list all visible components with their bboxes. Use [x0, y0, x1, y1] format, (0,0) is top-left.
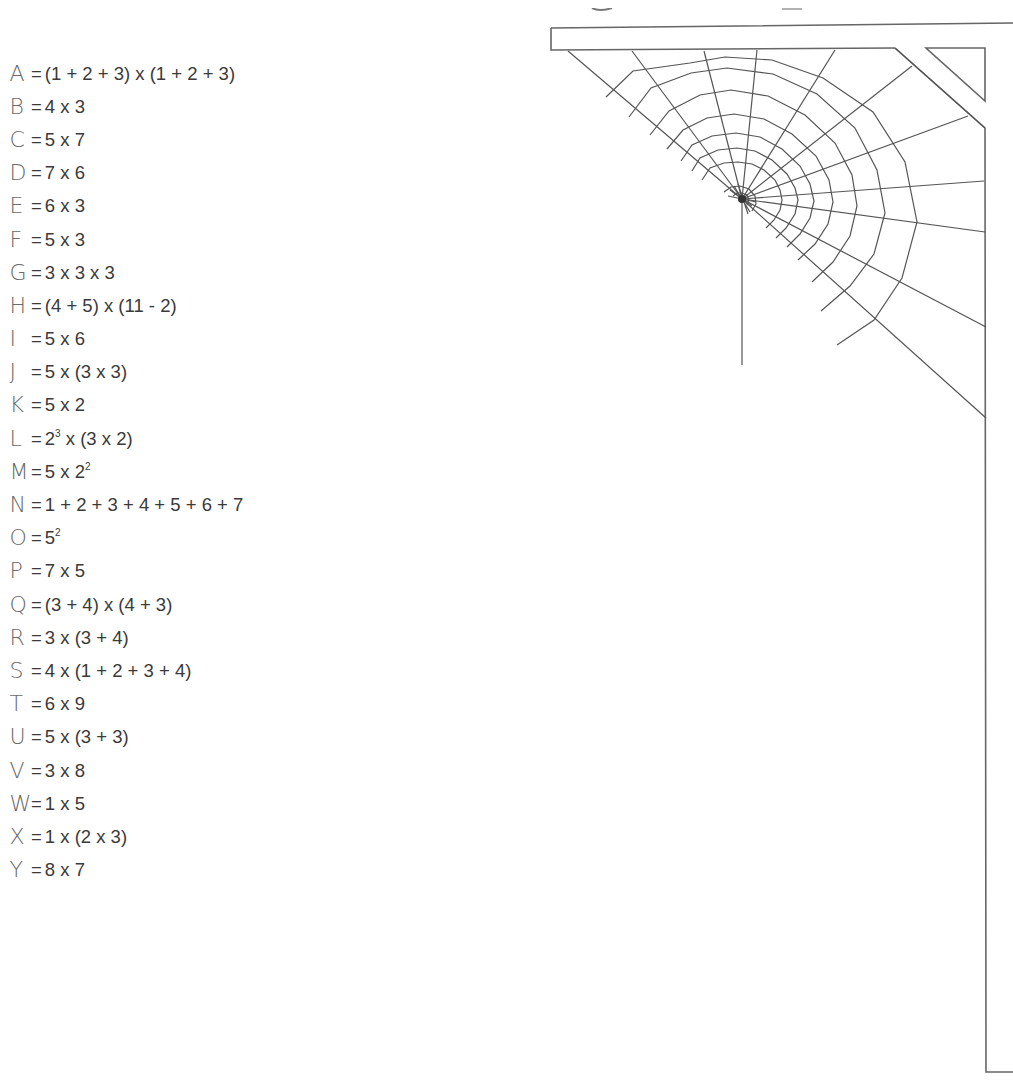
code-expression: 3 x 3 x 3 — [45, 259, 115, 287]
equals-sign: = — [31, 325, 42, 353]
code-row-h: H=(4 + 5) x (11 - 2) — [10, 289, 243, 322]
code-row-d: D=7 x 6 — [10, 157, 243, 190]
equals-sign: = — [31, 591, 42, 619]
equals-sign: = — [31, 856, 42, 884]
web-hub-icon — [738, 195, 746, 203]
code-row-r: R=3 x (3 + 4) — [10, 621, 243, 654]
equals-sign: = — [31, 757, 42, 785]
code-letter: X — [10, 823, 31, 851]
equals-sign: = — [31, 425, 42, 453]
code-row-x: X=1 x (2 x 3) — [10, 820, 243, 853]
code-letter: A — [10, 60, 31, 88]
letter-code-list: A=(1 + 2 + 3) x (1 + 2 + 3) B=4 x 3 C=5 … — [10, 57, 243, 887]
code-row-i: I=5 x 6 — [10, 323, 243, 356]
code-row-k: K=5 x 2 — [10, 389, 243, 422]
code-expression: 6 x 3 — [45, 192, 85, 220]
code-row-v: V=3 x 8 — [10, 754, 243, 787]
code-expression: 1 + 2 + 3 + 4 + 5 + 6 + 7 — [45, 491, 244, 519]
code-expression: 3 x (3 + 4) — [45, 624, 129, 652]
code-letter: T — [10, 690, 31, 718]
equals-sign: = — [31, 226, 42, 254]
equals-sign: = — [31, 60, 42, 88]
code-letter: C — [10, 126, 31, 154]
code-letter: R — [10, 624, 31, 652]
code-row-f: F=5 x 3 — [10, 223, 243, 256]
code-letter: M — [10, 458, 31, 486]
code-expression: 5 x 22 — [45, 458, 91, 486]
code-letter: J — [10, 358, 31, 386]
code-expression: 4 x 3 — [45, 93, 85, 121]
code-expression: (3 + 4) x (4 + 3) — [45, 591, 173, 619]
code-expression: 5 x (3 + 3) — [45, 723, 129, 751]
code-expression: 4 x (1 + 2 + 3 + 4) — [45, 657, 192, 685]
code-letter: N — [10, 491, 31, 519]
code-row-o: O=52 — [10, 522, 243, 555]
code-row-j: J=5 x (3 x 3) — [10, 356, 243, 389]
equals-sign: = — [31, 292, 42, 320]
code-expression: 5 x 3 — [45, 226, 85, 254]
code-row-b: B=4 x 3 — [10, 90, 243, 123]
code-expression: 52 — [45, 524, 61, 552]
code-expression: (1 + 2 + 3) x (1 + 2 + 3) — [45, 60, 235, 88]
code-row-q: Q=(3 + 4) x (4 + 3) — [10, 588, 243, 621]
code-expression: 7 x 6 — [45, 159, 85, 187]
code-expression: 8 x 7 — [45, 856, 85, 884]
equals-sign: = — [31, 391, 42, 419]
code-letter: Y — [10, 856, 31, 884]
frame-icon — [551, 23, 1013, 1072]
code-row-y: Y=8 x 7 — [10, 854, 243, 887]
code-letter: B — [10, 93, 31, 121]
code-row-m: M=5 x 22 — [10, 455, 243, 488]
equals-sign: = — [31, 690, 42, 718]
code-expression: 5 x (3 x 3) — [45, 358, 127, 386]
code-letter: H — [10, 292, 31, 320]
code-letter: G — [10, 259, 31, 287]
code-expression: 7 x 5 — [45, 557, 85, 585]
code-letter: L — [10, 425, 31, 453]
code-expression: 3 x 8 — [45, 757, 85, 785]
exponent: 2 — [85, 461, 91, 472]
code-expression: 6 x 9 — [45, 690, 85, 718]
code-row-t: T=6 x 9 — [10, 688, 243, 721]
code-letter: D — [10, 159, 31, 187]
worksheet-page: A=(1 + 2 + 3) x (1 + 2 + 3) B=4 x 3 C=5 … — [0, 0, 1013, 1083]
equals-sign: = — [31, 491, 42, 519]
equals-sign: = — [31, 823, 42, 851]
code-row-e: E=6 x 3 — [10, 190, 243, 223]
code-letter: K — [10, 391, 31, 419]
code-row-u: U=5 x (3 + 3) — [10, 721, 243, 754]
code-letter: Q — [10, 591, 31, 619]
code-row-w: W=1 x 5 — [10, 787, 243, 820]
equals-sign: = — [31, 159, 42, 187]
code-letter: S — [10, 657, 31, 685]
equals-sign: = — [31, 657, 42, 685]
equals-sign: = — [31, 723, 42, 751]
web-icon — [568, 48, 986, 418]
equals-sign: = — [31, 192, 42, 220]
code-expression: 23 x (3 x 2) — [45, 425, 133, 453]
code-expression: 5 x 2 — [45, 391, 85, 419]
code-letter: I — [10, 325, 31, 353]
equals-sign: = — [31, 458, 42, 486]
code-letter: E — [10, 192, 31, 220]
code-expression: 1 x 5 — [45, 790, 85, 818]
equals-sign: = — [31, 624, 42, 652]
equals-sign: = — [31, 790, 42, 818]
code-letter: P — [10, 557, 31, 585]
code-row-n: N=1 + 2 + 3 + 4 + 5 + 6 + 7 — [10, 488, 243, 521]
code-letter: W — [10, 790, 31, 818]
code-row-c: C=5 x 7 — [10, 123, 243, 156]
exponent: 2 — [55, 527, 61, 538]
code-letter: U — [10, 723, 31, 751]
code-row-g: G=3 x 3 x 3 — [10, 256, 243, 289]
equals-sign: = — [31, 358, 42, 386]
equals-sign: = — [31, 93, 42, 121]
code-expression: 1 x (2 x 3) — [45, 823, 127, 851]
code-letter: F — [10, 226, 31, 254]
equals-sign: = — [31, 557, 42, 585]
code-expression: (4 + 5) x (11 - 2) — [45, 292, 177, 320]
code-row-a: A=(1 + 2 + 3) x (1 + 2 + 3) — [10, 57, 243, 90]
equals-sign: = — [31, 259, 42, 287]
code-row-s: S=4 x (1 + 2 + 3 + 4) — [10, 654, 243, 687]
spider-web-illustration — [540, 0, 1013, 1083]
